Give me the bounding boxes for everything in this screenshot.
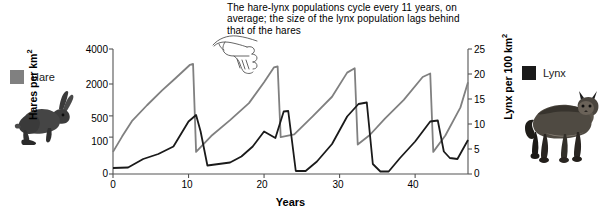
series-line-hare xyxy=(113,64,468,152)
axis-lines xyxy=(113,49,468,174)
axis-ticks xyxy=(109,49,472,178)
series-line-lynx xyxy=(113,103,468,172)
figure-root: The hare-lynx populations cycle every 11… xyxy=(0,0,609,223)
chart-svg-canvas xyxy=(0,0,609,223)
chart-plot: Hares per km2 Lynx per 100 km2 Years 400… xyxy=(0,0,609,223)
